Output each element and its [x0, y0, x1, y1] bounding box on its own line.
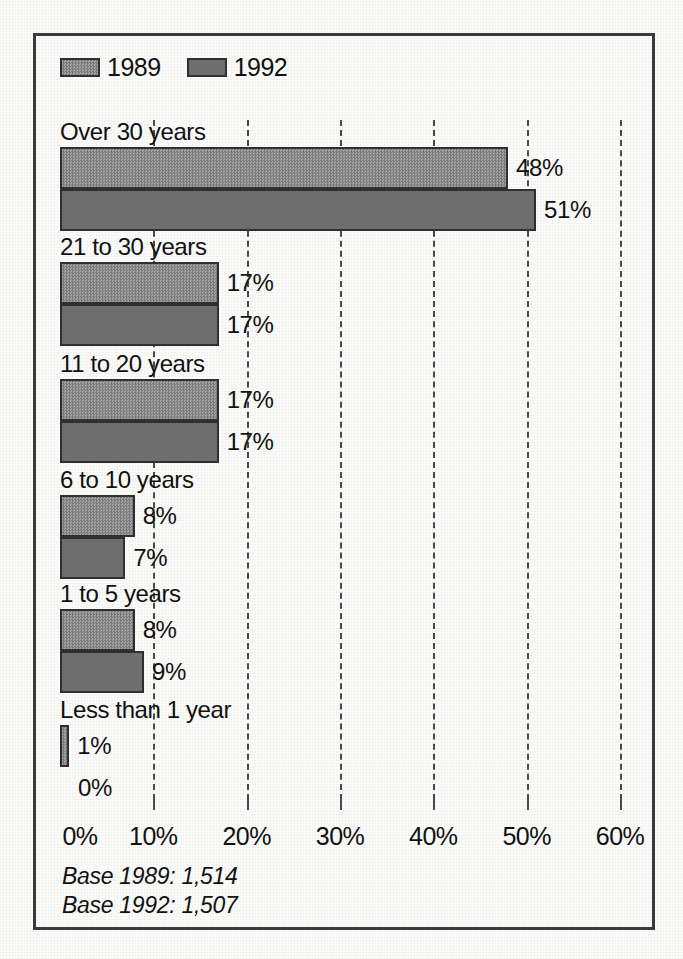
- base-note-1989: Base 1989: 1,514: [62, 862, 238, 891]
- bar-1989: [60, 262, 219, 304]
- tick-mark-10: [153, 796, 155, 806]
- chart-legend: 19891992: [60, 55, 313, 80]
- bar-row: 8%: [60, 495, 620, 537]
- bar-row: 17%: [60, 379, 620, 421]
- bar-1992: [60, 304, 219, 346]
- tick-label-0: 0%: [62, 824, 97, 849]
- legend-label-1992: 1992: [234, 55, 288, 80]
- bar-row: 48%: [60, 147, 620, 189]
- base-note-1992: Base 1992: 1,507: [62, 891, 238, 920]
- bar-1992: [60, 189, 536, 231]
- tick-mark-40: [433, 796, 435, 806]
- category-label: 1 to 5 years: [60, 582, 620, 606]
- bar-row: 51%: [60, 189, 620, 231]
- bar-value-label: 17%: [227, 271, 274, 295]
- bar-group: 21 to 30 years17%17%: [60, 235, 620, 346]
- bar-value-label: 8%: [143, 504, 177, 528]
- tick-label-30: 30%: [316, 824, 365, 849]
- category-label: 11 to 20 years: [60, 352, 620, 376]
- legend-entry-1992: 1992: [187, 55, 288, 80]
- bar-group: 6 to 10 years8%7%: [60, 468, 620, 579]
- bar-value-label: 17%: [227, 388, 274, 412]
- bar-1992: [60, 537, 125, 579]
- legend-entry-1989: 1989: [60, 55, 161, 80]
- category-label: 6 to 10 years: [60, 468, 620, 492]
- tick-label-20: 20%: [222, 824, 271, 849]
- bar-value-label: 17%: [227, 313, 274, 337]
- bar-1992: [60, 421, 219, 463]
- bar-value-label: 0%: [78, 776, 112, 800]
- tick-label-50: 50%: [502, 824, 551, 849]
- bar-1989: [60, 609, 135, 651]
- bar-group: Less than 1 year1%0%: [60, 698, 620, 809]
- bar-1989: [60, 379, 219, 421]
- legend-swatch-1989: [60, 58, 100, 77]
- bar-row: 17%: [60, 304, 620, 346]
- tick-label-40: 40%: [409, 824, 458, 849]
- base-notes: Base 1989: 1,514 Base 1992: 1,507: [62, 862, 238, 920]
- bar-value-label: 51%: [544, 198, 591, 222]
- bar-value-label: 7%: [133, 546, 167, 570]
- bar-value-label: 1%: [77, 734, 111, 758]
- bar-group: 1 to 5 years8%9%: [60, 582, 620, 693]
- bar-1989: [60, 495, 135, 537]
- bar-row: 17%: [60, 262, 620, 304]
- legend-swatch-1992: [187, 58, 227, 77]
- x-axis: 0%10%20%30%40%50%60%: [60, 810, 620, 860]
- tick-label-10: 10%: [129, 824, 178, 849]
- bar-group: 11 to 20 years17%17%: [60, 352, 620, 463]
- bar-row: 8%: [60, 609, 620, 651]
- bar-1989: [60, 725, 69, 767]
- bar-row: 7%: [60, 537, 620, 579]
- bar-1992: [60, 651, 144, 693]
- bar-value-label: 9%: [152, 660, 186, 684]
- bar-group: Over 30 years48%51%: [60, 120, 620, 231]
- bar-value-label: 8%: [143, 618, 177, 642]
- plot-area: Over 30 years48%51%21 to 30 years17%17%1…: [60, 120, 620, 810]
- category-label: Less than 1 year: [60, 698, 620, 722]
- tick-mark-60: [620, 796, 622, 806]
- bar-value-label: 17%: [227, 430, 274, 454]
- bar-row: 1%: [60, 725, 620, 767]
- bar-row: 9%: [60, 651, 620, 693]
- bar-row: 17%: [60, 421, 620, 463]
- category-label: Over 30 years: [60, 120, 620, 144]
- tick-mark-30: [340, 796, 342, 806]
- tick-mark-50: [527, 796, 529, 806]
- bar-value-label: 48%: [516, 156, 563, 180]
- bar-1989: [60, 147, 508, 189]
- legend-label-1989: 1989: [107, 55, 161, 80]
- category-label: 21 to 30 years: [60, 235, 620, 259]
- tick-label-60: 60%: [596, 824, 645, 849]
- tick-mark-20: [247, 796, 249, 806]
